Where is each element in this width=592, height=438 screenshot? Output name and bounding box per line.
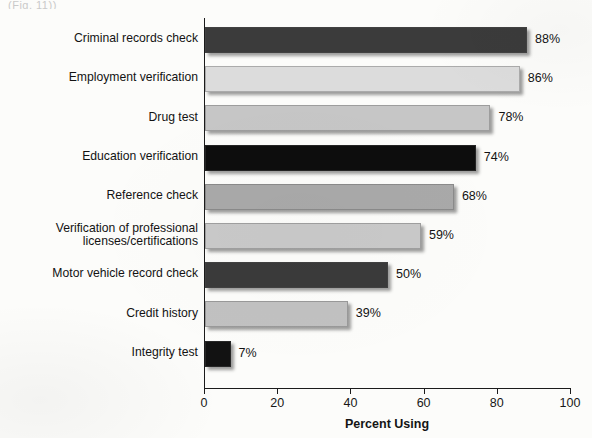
x-tick-mark bbox=[350, 388, 351, 394]
x-tick-label: 20 bbox=[270, 396, 284, 410]
bar bbox=[205, 66, 520, 92]
category-label: Integrity test bbox=[0, 346, 198, 360]
bar-value-label: 74% bbox=[484, 150, 509, 164]
category-label: Reference check bbox=[0, 189, 198, 203]
bar bbox=[205, 341, 231, 367]
bar-value-label: 59% bbox=[429, 228, 454, 242]
x-tick-mark bbox=[277, 388, 278, 394]
bar-value-label: 68% bbox=[462, 189, 487, 203]
category-label: Motor vehicle record check bbox=[0, 267, 198, 281]
bar-value-label: 39% bbox=[356, 306, 381, 320]
x-tick-label: 60 bbox=[417, 396, 431, 410]
bar-chart: (Fig. 11)) 020406080100 Criminal records… bbox=[0, 0, 592, 438]
bar bbox=[205, 301, 348, 327]
x-tick-mark bbox=[497, 388, 498, 394]
x-tick-mark bbox=[204, 388, 205, 394]
x-axis-line bbox=[204, 388, 570, 389]
bar bbox=[205, 184, 454, 210]
x-axis-title: Percent Using bbox=[204, 417, 570, 431]
category-label: Education verification bbox=[0, 150, 198, 164]
category-label: Verification of professional licenses/ce… bbox=[0, 222, 198, 249]
bar bbox=[205, 145, 476, 171]
x-tick-mark bbox=[570, 388, 571, 394]
category-label: Drug test bbox=[0, 111, 198, 125]
bar-value-label: 88% bbox=[535, 32, 560, 46]
x-tick-label: 80 bbox=[490, 396, 504, 410]
bar bbox=[205, 27, 527, 53]
bar bbox=[205, 262, 388, 288]
x-tick-label: 0 bbox=[201, 396, 208, 410]
category-label: Credit history bbox=[0, 307, 198, 321]
x-tick-label: 100 bbox=[560, 396, 581, 410]
x-tick-mark bbox=[424, 388, 425, 394]
bar-value-label: 50% bbox=[396, 267, 421, 281]
x-tick-label: 40 bbox=[343, 396, 357, 410]
category-label: Criminal records check bbox=[0, 32, 198, 46]
scan-artifact-text: (Fig. 11)) bbox=[8, 0, 57, 9]
bar bbox=[205, 105, 490, 131]
bar-value-label: 7% bbox=[239, 346, 257, 360]
bar-value-label: 78% bbox=[498, 110, 523, 124]
category-label: Employment verification bbox=[0, 71, 198, 85]
bar-value-label: 86% bbox=[528, 71, 553, 85]
bar bbox=[205, 223, 421, 249]
